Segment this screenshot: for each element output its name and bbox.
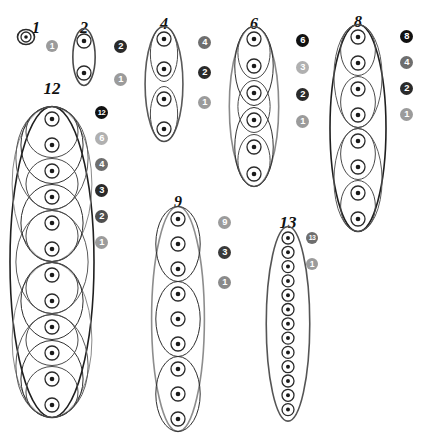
panel-8-legend-badge-4: 4 [400, 56, 413, 69]
panel-12-unit-dot-core [50, 325, 55, 330]
panel-8-unit-dot-core [356, 139, 361, 144]
panel-1-glyph [14, 18, 48, 54]
panel-12-unit-dot-core [50, 351, 55, 356]
panel-6-unit-dot-core [252, 145, 257, 150]
panel-6-glyph [228, 16, 290, 205]
panel-6-legend-badge-3: 3 [296, 61, 309, 74]
panel-6-unit-dot-core [252, 37, 257, 42]
panel-9-unit-dot-core [176, 417, 181, 422]
panel-12-unit-dot-core [50, 377, 55, 382]
panel-6-legend-badge-6: 6 [296, 34, 309, 47]
panel-12-unit-dot-core [50, 299, 55, 304]
panel-9-unit-dot-core [176, 317, 181, 322]
panel-9-unit-dot-core [176, 392, 181, 397]
panel-13-unit-dot-core [286, 350, 290, 354]
panel-9-unit-dot-core [176, 217, 181, 222]
panel-13-unit-dot-core [286, 393, 290, 397]
panel-4-unit-dot-core [162, 127, 167, 132]
panel-8-legend-badge-8: 8 [400, 30, 413, 43]
panel-6-legend-badge-2: 2 [296, 88, 309, 101]
panel-8-unit-dot-core [356, 217, 361, 222]
panel-4-legend-badge-1: 1 [198, 96, 211, 109]
panel-13-legend-badge-1: 1 [306, 258, 318, 270]
panel-13-unit-dot-core [286, 293, 290, 297]
panel-13-legend-badge-13: 13 [306, 232, 318, 244]
panel-8-glyph [330, 14, 396, 250]
panel-12-glyph [10, 94, 104, 436]
panel-2-legend-badge-1: 1 [114, 73, 127, 86]
panel-2-legend-badge-2: 2 [114, 40, 127, 53]
panel-12-unit-dot-core [50, 221, 55, 226]
panel-4-unit-dot-core [162, 67, 167, 72]
panel-8-unit-dot-core [356, 35, 361, 40]
panel-4-unit-dot-core [162, 37, 167, 42]
panel-12-unit-dot-core [50, 117, 55, 122]
panel-12-unit-dot-core [50, 247, 55, 252]
panel-13-unit-dot-core [286, 308, 290, 312]
panel-9-unit-dot-core [176, 342, 181, 347]
panel-13-unit-dot-core [286, 236, 290, 240]
panel-13-unit-dot-core [286, 379, 290, 383]
panel-9-legend-badge-9: 9 [218, 216, 231, 229]
panel-12-legend-badge-4: 4 [95, 158, 108, 171]
panel-8-legend-badge-2: 2 [400, 82, 413, 95]
panel-13-glyph [256, 214, 330, 437]
panel-13-unit-dot-core [286, 322, 290, 326]
panel-13-unit-dot-core [286, 365, 290, 369]
panel-13-unit-dot-core [286, 250, 290, 254]
panel-12-unit-dot-core [50, 195, 55, 200]
panel-13-unit-dot-core [286, 336, 290, 340]
panel-9-unit-dot-core [176, 267, 181, 272]
panel-9-unit-dot-core [176, 292, 181, 297]
panel-9-legend-badge-3: 3 [218, 246, 231, 259]
panel-6-unit-dot-core [252, 64, 257, 69]
panel-6-legend-badge-1: 1 [296, 115, 309, 128]
panel-4-legend-badge-2: 2 [198, 66, 211, 79]
panel-8-unit-dot-core [356, 191, 361, 196]
panel-9-legend-badge-1: 1 [218, 276, 231, 289]
panel-1-legend-badge-1: 1 [46, 40, 58, 52]
panel-12-legend-badge-12: 12 [95, 106, 108, 119]
panel-9-unit-dot-core [176, 367, 181, 372]
panel-12-unit-dot-core [50, 143, 55, 148]
panel-9-unit-dot-core [176, 242, 181, 247]
panel-6-unit-dot-core [252, 118, 257, 123]
panel-8-unit-dot-core [356, 113, 361, 118]
panel-6-unit-dot-core [252, 172, 257, 177]
panel-13-unit-dot-core [286, 408, 290, 412]
panel-2-unit-dot-core [82, 71, 87, 76]
panel-12-unit-dot-core [50, 169, 55, 174]
panel-12-unit-dot-core [50, 403, 55, 408]
panel-12-legend-badge-6: 6 [95, 132, 108, 145]
panel-12-legend-badge-2: 2 [95, 210, 108, 223]
panel-2-unit-dot-core [82, 39, 87, 44]
panel-4-glyph [142, 16, 196, 160]
panel-4-unit-dot-core [162, 97, 167, 102]
panel-12-legend-badge-1: 1 [95, 236, 108, 249]
panel-13-unit-dot-core [286, 279, 290, 283]
panel-6-unit-dot-core [252, 91, 257, 96]
panel-13-unit-dot-core [286, 265, 290, 269]
panel-8-unit-dot-core [356, 87, 361, 92]
panel-12-legend-badge-3: 3 [95, 184, 108, 197]
panel-8-unit-dot-core [356, 165, 361, 170]
panel-1-unit-dot-core [24, 35, 28, 39]
panel-2-glyph [66, 18, 112, 104]
panel-9-glyph [148, 194, 218, 437]
panel-8-legend-badge-1: 1 [400, 108, 413, 121]
panel-12-unit-dot-core [50, 273, 55, 278]
panel-8-unit-dot-core [356, 61, 361, 66]
panel-4-legend-badge-4: 4 [198, 36, 211, 49]
